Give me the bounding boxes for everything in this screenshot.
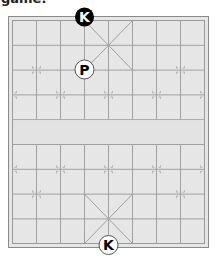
piece-label: P <box>79 62 89 78</box>
piece-black-king[interactable]: K <box>75 8 94 27</box>
piece-white-pawn[interactable]: P <box>75 60 94 79</box>
piece-label: K <box>79 9 91 25</box>
piece-white-king[interactable]: K <box>99 236 118 255</box>
piece-label: K <box>103 237 115 253</box>
xiangqi-board[interactable]: K P K <box>0 0 215 259</box>
river <box>13 120 204 144</box>
